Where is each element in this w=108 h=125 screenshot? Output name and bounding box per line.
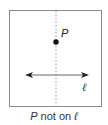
point-label: P [61,27,69,39]
point-p [53,39,58,44]
caption-point: P [30,110,37,122]
caption-line: ℓ [74,110,78,122]
line-label: ℓ [82,81,87,93]
caption-text: not on [38,110,75,122]
caption: P not on ℓ [0,110,108,122]
diagram-canvas: P ℓ [0,0,108,125]
